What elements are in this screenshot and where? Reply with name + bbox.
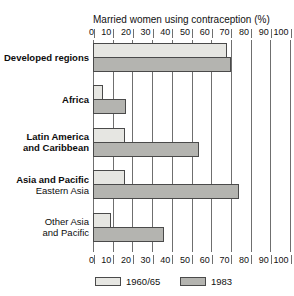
bar-1960-65 [93, 43, 227, 58]
x-tick-label-50: 50 [180, 254, 192, 266]
x-tick-mark-80 [251, 255, 252, 264]
bar-1983 [93, 57, 231, 72]
x-tick-mark-10 [113, 255, 114, 264]
x-tick-label-30: 30 [141, 26, 153, 38]
legend-label: 1983 [211, 276, 232, 287]
x-tick-mark-80 [251, 29, 252, 38]
x-tick-mark-70 [231, 29, 232, 38]
x-tick-mark-100 [291, 255, 292, 264]
x-tick-label-10: 10 [101, 254, 113, 266]
clipped-caption-strip [0, 0, 294, 8]
x-tick-mark-40 [172, 255, 173, 264]
category-label: Developed regions [1, 52, 89, 63]
x-tick-mark-20 [133, 255, 134, 264]
bar-1983 [93, 99, 126, 114]
legend-swatch-icon [180, 277, 206, 286]
bar-1960-65 [93, 85, 103, 100]
gridline-80 [251, 40, 252, 252]
x-tick-mark-0 [94, 255, 95, 264]
x-tick-label-90: 90 [259, 254, 271, 266]
x-tick-label-80: 80 [239, 254, 251, 266]
category-label: Other Asia [1, 216, 89, 227]
x-tick-label-40: 40 [160, 26, 172, 38]
x-tick-mark-90 [271, 29, 272, 38]
category-label: Eastern Asia [1, 185, 89, 196]
category-label: and Caribbean [1, 142, 89, 153]
bar-1983 [93, 142, 199, 157]
x-tick-label-70: 70 [219, 254, 231, 266]
x-tick-label-100: 100 [273, 26, 290, 38]
x-tick-label-10: 10 [101, 26, 113, 38]
x-tick-label-50: 50 [180, 26, 192, 38]
x-tick-mark-50 [192, 255, 193, 264]
legend-swatch-icon [95, 277, 121, 286]
x-tick-label-60: 60 [200, 26, 212, 38]
x-tick-label-20: 20 [121, 26, 133, 38]
gridline-90 [270, 40, 271, 252]
x-tick-mark-30 [153, 29, 154, 38]
x-tick-label-80: 80 [239, 26, 251, 38]
category-label: and Pacific [1, 227, 89, 238]
bar-1983 [93, 184, 239, 199]
x-tick-mark-10 [113, 29, 114, 38]
gridline-70 [231, 40, 232, 252]
legend-item[interactable]: 1960/65 [95, 276, 160, 287]
legend-item[interactable]: 1983 [180, 276, 232, 287]
x-tick-label-40: 40 [160, 254, 172, 266]
x-tick-mark-0 [94, 29, 95, 38]
chart-axis-title: Married women using contraception (%) [93, 14, 293, 26]
x-tick-label-100: 100 [273, 254, 290, 266]
bar-chart: Married women using contraception (%) 01… [0, 8, 294, 296]
category-label: Africa [1, 94, 89, 105]
chart-legend: 1960/651983 [0, 276, 294, 296]
bar-1960-65 [93, 170, 125, 185]
x-tick-mark-50 [192, 29, 193, 38]
x-tick-label-0: 0 [89, 26, 96, 38]
x-tick-mark-60 [212, 255, 213, 264]
x-tick-label-20: 20 [121, 254, 133, 266]
gridline-100 [290, 40, 291, 252]
x-tick-mark-20 [133, 29, 134, 38]
x-tick-label-90: 90 [259, 26, 271, 38]
x-tick-mark-70 [231, 255, 232, 264]
category-label: Asia and Pacific [1, 174, 89, 185]
x-tick-label-0: 0 [89, 254, 96, 266]
category-label: Latin America [1, 131, 89, 142]
x-tick-label-30: 30 [141, 254, 153, 266]
x-tick-mark-90 [271, 255, 272, 264]
x-tick-mark-60 [212, 29, 213, 38]
bar-1960-65 [93, 213, 111, 228]
x-tick-label-60: 60 [200, 254, 212, 266]
x-tick-label-70: 70 [219, 26, 231, 38]
x-tick-mark-30 [153, 255, 154, 264]
bar-1983 [93, 227, 164, 242]
x-tick-mark-40 [172, 29, 173, 38]
x-tick-mark-100 [291, 29, 292, 38]
x-axis-ticks-bottom: 0102030405060708090100 [93, 254, 290, 268]
plot-area [93, 40, 290, 252]
bar-1960-65 [93, 128, 125, 143]
legend-label: 1960/65 [126, 276, 160, 287]
x-axis-ticks-top: 0102030405060708090100 [93, 26, 290, 40]
category-labels-column: Developed regionsAfricaLatin Americaand … [0, 40, 89, 252]
